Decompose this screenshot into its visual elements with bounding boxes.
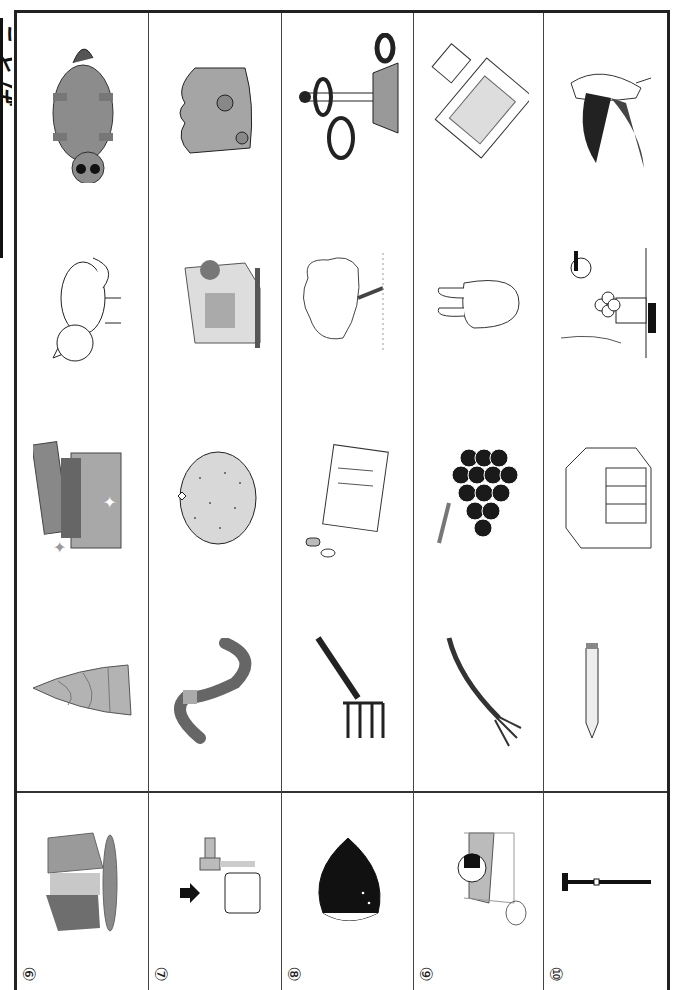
item-number: ⑩ bbox=[546, 966, 566, 981]
worksheet-grid: ✦ ✦ ⑥ bbox=[14, 10, 670, 990]
fox-picture bbox=[17, 208, 148, 398]
medicine-icon bbox=[298, 433, 398, 563]
swallow-picture bbox=[544, 13, 667, 203]
futon-mattress-picture bbox=[414, 13, 543, 203]
mandarin-orange-picture bbox=[149, 403, 281, 593]
column-9: ⑨ bbox=[414, 13, 544, 990]
treasure-box-picture: ✦ ✦ bbox=[17, 403, 148, 593]
medicine-picture bbox=[282, 403, 413, 593]
desk-picture bbox=[544, 403, 667, 593]
treasure-box-icon: ✦ ✦ bbox=[33, 428, 133, 568]
grapes-icon bbox=[429, 433, 529, 563]
svg-text:✦: ✦ bbox=[103, 493, 116, 512]
cane-picture bbox=[544, 803, 667, 963]
sewing-machine-picture bbox=[149, 208, 281, 398]
key-cell-6: ⑥ bbox=[17, 791, 148, 990]
desk-icon bbox=[556, 438, 656, 558]
ring-toss-picture bbox=[282, 13, 413, 203]
water-tap-picture bbox=[149, 803, 281, 963]
picture-list bbox=[414, 13, 543, 791]
turnip-picture bbox=[414, 208, 543, 398]
rake-picture bbox=[282, 598, 413, 788]
bamboo-shoot-icon bbox=[28, 653, 138, 733]
item-number: ⑦ bbox=[151, 966, 171, 981]
rake-icon bbox=[298, 628, 398, 758]
waterfall-icon bbox=[38, 828, 128, 938]
fox-icon bbox=[33, 238, 133, 368]
column-7: ⑦ bbox=[149, 13, 282, 990]
column-8: ⑧ bbox=[282, 13, 414, 990]
raccoon-dog-icon bbox=[33, 33, 133, 183]
chestnut-picture bbox=[282, 803, 413, 963]
raccoon-dog-picture bbox=[17, 13, 148, 203]
page-title-text: ことば bbox=[0, 18, 12, 108]
picture-list bbox=[282, 13, 413, 791]
ring-toss-icon bbox=[293, 33, 403, 183]
child-in-futon-icon bbox=[424, 823, 534, 943]
turnip-icon bbox=[429, 268, 529, 338]
waterfall-picture bbox=[17, 803, 148, 963]
svg-text:✦: ✦ bbox=[53, 538, 66, 557]
earthworm-picture bbox=[149, 598, 281, 788]
key-cell-7: ⑦ bbox=[149, 791, 281, 990]
moon-viewing-picture bbox=[544, 208, 667, 398]
key-cell-10: ⑩ bbox=[544, 791, 667, 990]
chestnut-icon bbox=[303, 833, 393, 933]
swallow-icon bbox=[556, 43, 656, 173]
mandarin-orange-icon bbox=[170, 448, 260, 548]
page-title: ことば bbox=[0, 18, 12, 258]
cheese-picture bbox=[149, 13, 281, 203]
fork-picture bbox=[414, 598, 543, 788]
futon-mattress-icon bbox=[429, 43, 529, 173]
cherry-tree-picture bbox=[282, 208, 413, 398]
grapes-picture bbox=[414, 403, 543, 593]
sewing-machine-icon bbox=[165, 248, 265, 358]
column-10: ⑩ bbox=[544, 13, 667, 990]
moon-viewing-icon bbox=[556, 243, 656, 363]
item-number: ⑧ bbox=[284, 966, 304, 981]
pencil-icon bbox=[556, 638, 656, 748]
earthworm-icon bbox=[165, 638, 265, 748]
key-cell-9: ⑨ bbox=[414, 791, 543, 990]
picture-list bbox=[149, 13, 281, 791]
cherry-tree-icon bbox=[298, 248, 398, 358]
pencil-picture bbox=[544, 598, 667, 788]
item-number: ⑥ bbox=[19, 966, 39, 981]
key-cell-8: ⑧ bbox=[282, 791, 413, 990]
picture-list: ✦ ✦ bbox=[17, 13, 148, 791]
column-6: ✦ ✦ ⑥ bbox=[17, 13, 149, 990]
cane-icon bbox=[556, 863, 656, 903]
futon-picture bbox=[414, 803, 543, 963]
water-tap-icon bbox=[165, 828, 265, 938]
bamboo-shoot-picture bbox=[17, 598, 148, 788]
picture-list bbox=[544, 13, 667, 791]
cheese-icon bbox=[170, 58, 260, 158]
item-number: ⑨ bbox=[416, 966, 436, 981]
fork-icon bbox=[429, 628, 529, 758]
